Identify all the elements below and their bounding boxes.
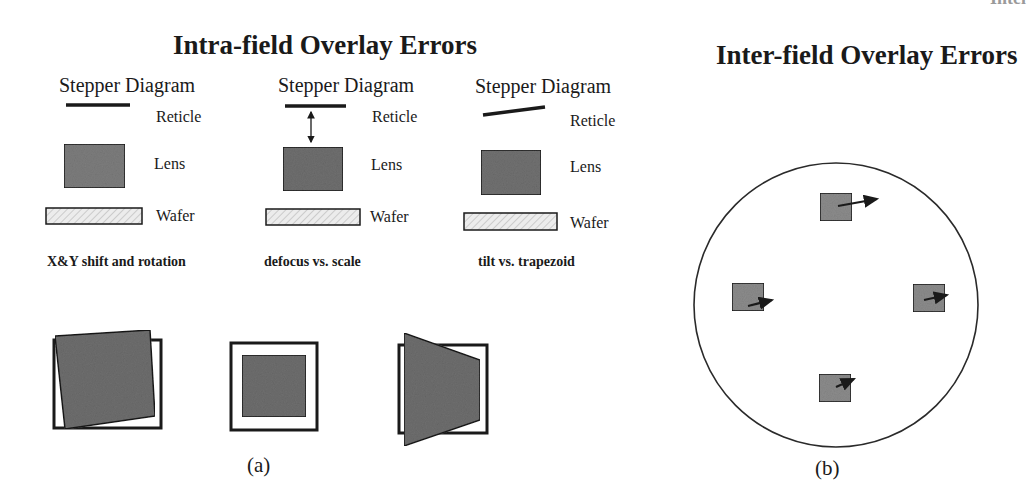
wafer-label-1: Wafer: [156, 207, 195, 225]
stepper-heading-1: Stepper Diagram: [59, 74, 195, 97]
reticle-label-3: Reticle: [570, 112, 615, 130]
rotated-field: [55, 330, 155, 429]
lens-label-2: Lens: [371, 156, 402, 174]
stepper-diagram-1: [46, 105, 142, 224]
lens-label-1: Lens: [154, 155, 185, 173]
wafer-3: [464, 213, 557, 230]
corner-text: Intel: [990, 0, 1026, 9]
reticle-label-1: Reticle: [156, 108, 201, 126]
inter-field-title: Inter-field Overlay Errors: [716, 40, 1017, 71]
scaled-field: [242, 355, 306, 417]
wafer-label-2: Wafer: [370, 208, 409, 226]
panel-label-a: (a): [247, 453, 270, 478]
stepper-diagram-2: [266, 106, 360, 225]
intra-field-title: Intra-field Overlay Errors: [173, 30, 477, 61]
lens-3: [481, 150, 541, 195]
lens-2: [283, 147, 343, 191]
stepper-heading-3: Stepper Diagram: [475, 75, 611, 98]
wafer-1: [46, 208, 142, 224]
reticle-label-2: Reticle: [372, 108, 417, 126]
overlay-rotation: [54, 330, 161, 429]
caption-3: tilt vs. trapezoid: [478, 254, 575, 270]
lens-label-3: Lens: [570, 158, 601, 176]
wafer-map: [694, 163, 978, 447]
caption-1: X&Y shift and rotation: [47, 254, 186, 270]
field-top: [820, 193, 852, 221]
wafer-2: [266, 209, 360, 225]
caption-2: defocus vs. scale: [264, 254, 361, 270]
reticle-3-tilted: [483, 107, 545, 115]
field-left: [732, 283, 764, 311]
overlay-scale: [231, 343, 317, 430]
lens-1: [64, 144, 125, 188]
panel-label-b: (b): [815, 456, 840, 481]
trapezoid-field: [404, 333, 480, 446]
stepper-diagram-3: [464, 107, 557, 230]
overlay-trapezoid: [399, 333, 487, 446]
field-bottom: [819, 374, 851, 402]
wafer-label-3: Wafer: [570, 214, 609, 232]
stepper-heading-2: Stepper Diagram: [278, 74, 414, 97]
